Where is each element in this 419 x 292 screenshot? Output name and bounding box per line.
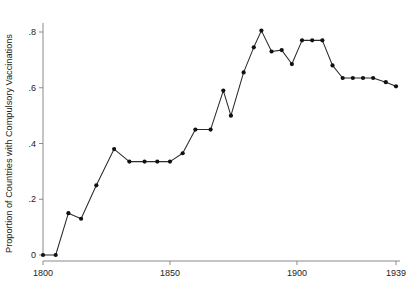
data-point [252, 45, 256, 49]
series-line-0 [43, 31, 396, 255]
data-point [351, 76, 355, 80]
y-tick-label: .6 [28, 83, 36, 93]
data-point [79, 217, 83, 221]
data-point [221, 88, 225, 92]
data-point [259, 29, 263, 33]
data-point [300, 38, 304, 42]
y-tick-label: .8 [28, 27, 36, 37]
data-point [280, 48, 284, 52]
data-point [394, 84, 398, 88]
data-point [155, 160, 159, 164]
y-tick-label: .2 [28, 194, 36, 204]
data-point [330, 63, 334, 67]
data-point [384, 80, 388, 84]
y-tick-label: .4 [28, 139, 36, 149]
vaccination-line-chart: 0.2.4.6.81800185019001939Proportion of C… [0, 0, 419, 292]
y-tick-label: 0 [31, 250, 36, 260]
x-tick-label: 1939 [386, 268, 406, 278]
x-tick-label: 1800 [33, 268, 53, 278]
data-point [193, 127, 197, 131]
data-point [229, 114, 233, 118]
x-tick-label: 1900 [287, 268, 307, 278]
data-point [112, 147, 116, 151]
data-point [41, 253, 45, 257]
data-point [142, 160, 146, 164]
x-tick-label: 1850 [160, 268, 180, 278]
y-axis-title: Proportion of Countries with Compulsory … [4, 34, 14, 253]
data-point [66, 211, 70, 215]
data-point [290, 62, 294, 66]
data-point [361, 76, 365, 80]
data-point [371, 76, 375, 80]
data-point [127, 160, 131, 164]
data-point [341, 76, 345, 80]
data-point [168, 160, 172, 164]
data-point [181, 151, 185, 155]
data-point [320, 38, 324, 42]
data-point [242, 70, 246, 74]
data-point [269, 49, 273, 53]
data-point [209, 127, 213, 131]
chart-container: 0.2.4.6.81800185019001939Proportion of C… [0, 0, 419, 292]
data-point [54, 253, 58, 257]
data-point [310, 38, 314, 42]
data-point [94, 183, 98, 187]
